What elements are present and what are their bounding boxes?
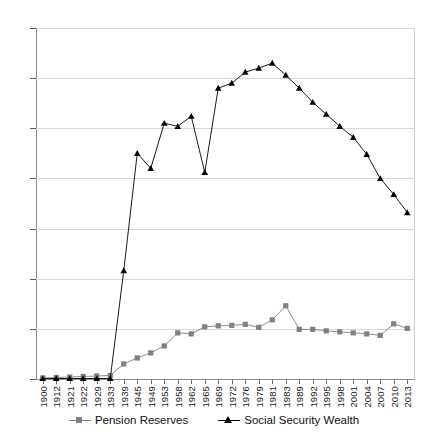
data-point [162,343,167,348]
x-tick-label: 1912 [51,386,62,408]
series-layer [36,28,414,379]
data-point [243,322,248,327]
x-tick-mark [245,379,246,384]
legend-entry-pension-reserves[interactable]: Pension Reserves [69,414,188,426]
plot-area [36,28,414,379]
data-point [351,330,356,335]
x-tick-mark [326,379,327,384]
series-pension-reserves [40,303,410,380]
x-tick-mark [178,379,179,384]
data-point [229,323,234,328]
x-tick-label: 1922 [78,386,89,408]
x-tick-mark [299,379,300,384]
data-point [188,113,195,119]
x-tick-label: 1939 [119,386,130,408]
y-tick-mark [30,379,36,380]
data-point [134,150,141,156]
data-point [215,85,222,91]
data-point [283,303,288,308]
data-point [216,323,221,328]
x-tick-label: 1969 [213,386,224,408]
x-tick-mark [151,379,152,384]
x-tick-label: 1945 [132,386,143,408]
x-tick-mark [232,379,233,384]
series-line [43,306,408,378]
x-tick-label: 2010 [389,386,400,408]
data-point [189,331,194,336]
x-tick-mark [380,379,381,384]
x-tick-mark [353,379,354,384]
x-tick-mark [137,379,138,384]
data-point [297,327,302,332]
x-tick-label: 1933 [105,386,116,408]
chart-legend: Pension ReservesSocial Security Wealth [0,414,428,426]
legend-entry-social-security-wealth[interactable]: Social Security Wealth [218,414,359,426]
x-tick-label: 1981 [267,386,278,408]
data-point [120,267,127,273]
data-point [202,324,207,329]
x-tick-label: 1972 [227,386,238,408]
chart-container: 05101520253035 1900191219211922192919331… [0,0,428,440]
data-point [405,326,410,331]
data-point [135,355,140,360]
x-tick-label: 2013 [402,386,413,408]
data-point [310,327,315,332]
x-tick-label: 1965 [200,386,211,408]
x-tick-mark [191,379,192,384]
data-point [391,321,396,326]
triangle-marker-icon [218,415,240,425]
x-tick-label: 1995 [321,386,332,408]
x-tick-label: 1958 [173,386,184,408]
legend-label: Social Security Wealth [244,414,359,426]
data-point [161,120,168,126]
x-tick-mark [124,379,125,384]
x-tick-label: 1983 [281,386,292,408]
x-tick-mark [218,379,219,384]
data-point [148,350,153,355]
x-tick-label: 1992 [308,386,319,408]
x-tick-mark [313,379,314,384]
x-tick-label: 1998 [335,386,346,408]
x-axis-line [36,379,415,380]
x-tick-label: 1989 [294,386,305,408]
data-point [255,65,262,71]
data-point [378,333,383,338]
plot-right-border [414,28,415,380]
x-tick-mark [394,379,395,384]
x-tick-mark [367,379,368,384]
x-tick-mark [340,379,341,384]
x-tick-label: 1953 [159,386,170,408]
x-tick-label: 2001 [348,386,359,408]
data-point [337,329,342,334]
x-tick-label: 1921 [65,386,76,408]
data-point [201,169,208,175]
data-point [377,175,384,181]
data-point [364,331,369,336]
legend-label: Pension Reserves [95,414,188,426]
data-point [121,361,126,366]
x-tick-mark [259,379,260,384]
data-point [269,60,276,66]
data-point [270,317,275,322]
x-tick-label: 1976 [240,386,251,408]
x-tick-label: 2004 [362,386,373,408]
x-tick-mark [164,379,165,384]
x-tick-label: 1949 [146,386,157,408]
x-tick-mark [286,379,287,384]
x-tick-label: 2007 [375,386,386,408]
x-tick-label: 1900 [38,386,49,408]
x-tick-mark [407,379,408,384]
data-point [175,330,180,335]
square-marker-icon [69,415,91,425]
x-tick-label: 1962 [186,386,197,408]
x-tick-label: 1979 [254,386,265,408]
data-point [256,325,261,330]
x-tick-label: 1929 [92,386,103,408]
x-tick-mark [272,379,273,384]
data-point [324,328,329,333]
x-tick-mark [205,379,206,384]
